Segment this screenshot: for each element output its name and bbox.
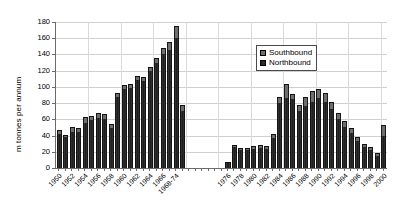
- bar: [310, 91, 315, 168]
- bar-segment-northbound: [232, 147, 237, 168]
- bar: [57, 130, 62, 168]
- bar-segment-northbound: [349, 133, 354, 168]
- x-axis-tick-mark: [91, 168, 92, 171]
- bar-segment-northbound: [290, 99, 295, 168]
- bar-segment-northbound: [122, 89, 127, 168]
- x-axis-tick-mark: [298, 168, 299, 171]
- bar-segment-northbound: [57, 134, 62, 168]
- gridline: [56, 38, 387, 39]
- bar-segment-northbound: [174, 38, 179, 168]
- bar: [355, 137, 360, 168]
- bar-segment-southbound: [316, 89, 321, 99]
- bar: [161, 48, 166, 168]
- bar: [154, 58, 159, 168]
- x-axis-tick-mark: [318, 168, 319, 171]
- bar-segment-northbound: [70, 132, 75, 169]
- x-axis-tick-mark: [208, 168, 209, 171]
- bar: [290, 94, 295, 168]
- bar: [102, 114, 107, 168]
- x-axis-tick-mark: [130, 168, 131, 171]
- bar: [70, 127, 75, 168]
- bar-segment-northbound: [161, 54, 166, 168]
- x-axis-tick-mark: [331, 168, 332, 171]
- legend-item-southbound: Southbound: [260, 48, 312, 58]
- x-axis-tick-mark: [84, 168, 85, 171]
- bar: [329, 102, 334, 169]
- bar: [342, 121, 347, 168]
- bar-segment-northbound: [264, 149, 269, 168]
- bar-segment-southbound: [310, 91, 315, 102]
- gridline: [56, 103, 387, 104]
- gridline: [56, 22, 387, 23]
- bar: [251, 146, 256, 168]
- bar-segment-northbound: [297, 111, 302, 168]
- bar-segment-northbound: [303, 106, 308, 168]
- bar-segment-southbound: [284, 84, 289, 98]
- bar: [336, 113, 341, 168]
- x-axis-tick-mark: [71, 168, 72, 171]
- bar-segment-southbound: [323, 93, 328, 101]
- bar-segment-northbound: [258, 148, 263, 168]
- x-axis-tick-mark: [195, 168, 196, 171]
- bar-segment-northbound: [63, 137, 68, 168]
- x-axis-tick-mark: [175, 168, 176, 171]
- x-axis-tick-mark: [272, 168, 273, 171]
- bar-segment-northbound: [115, 97, 120, 168]
- bar: [174, 26, 179, 168]
- x-axis-tick-mark: [279, 168, 280, 171]
- bar: [63, 135, 68, 168]
- bar-segment-northbound: [355, 141, 360, 168]
- bar-segment-northbound: [271, 138, 276, 168]
- bar-segment-northbound: [102, 119, 107, 168]
- bar: [271, 134, 276, 168]
- bar: [381, 125, 386, 168]
- x-axis-tick-mark: [246, 168, 247, 171]
- x-axis-tick-mark: [214, 168, 215, 171]
- x-axis-tick-mark: [117, 168, 118, 171]
- gridline: [56, 54, 387, 55]
- x-axis-tick-mark: [110, 168, 111, 171]
- bar: [148, 67, 153, 168]
- bar-segment-northbound: [148, 71, 153, 168]
- bar-segment-northbound: [375, 156, 380, 168]
- x-axis-tick-mark: [169, 168, 170, 171]
- bar: [323, 93, 328, 168]
- bar-segment-northbound: [329, 109, 334, 168]
- vertical-gridline: [186, 22, 187, 168]
- y-axis-tick-label: 180: [26, 18, 50, 26]
- bar-segment-northbound: [128, 88, 133, 168]
- bar-segment-northbound: [89, 120, 94, 168]
- bar-segment-northbound: [310, 102, 315, 168]
- bar: [258, 144, 263, 168]
- chart-legend: Southbound Northbound: [256, 45, 317, 71]
- bar-segment-southbound: [303, 97, 308, 107]
- bar: [232, 145, 237, 168]
- y-axis-title: m tonnes per annum: [14, 77, 23, 152]
- y-axis-tick-label: 0: [26, 164, 50, 172]
- bar-segment-northbound: [238, 150, 243, 168]
- bar: [180, 105, 185, 168]
- x-axis-tick-mark: [292, 168, 293, 171]
- bar-segment-southbound: [174, 26, 179, 38]
- bar: [135, 76, 140, 168]
- bar-segment-northbound: [96, 118, 101, 168]
- bar-segment-northbound: [381, 136, 386, 168]
- bar-segment-northbound: [167, 50, 172, 168]
- legend-swatch-northbound: [260, 60, 266, 66]
- x-axis-tick-mark: [227, 168, 228, 171]
- x-axis-tick-mark: [182, 168, 183, 171]
- x-axis-tick-mark: [149, 168, 150, 171]
- y-axis-tick-label: 60: [26, 115, 50, 123]
- bar: [277, 97, 282, 168]
- bar-segment-northbound: [342, 127, 347, 168]
- bar-segment-northbound: [336, 119, 341, 168]
- y-axis-tick-label: 40: [26, 132, 50, 140]
- legend-swatch-southbound: [260, 50, 266, 56]
- x-axis-tick-mark: [253, 168, 254, 171]
- bar-segment-northbound: [109, 128, 114, 168]
- x-axis-tick-mark: [65, 168, 66, 171]
- bar-segment-southbound: [381, 125, 386, 136]
- y-axis-tick-label: 100: [26, 83, 50, 91]
- x-axis-tick-mark: [285, 168, 286, 171]
- bar: [141, 77, 146, 168]
